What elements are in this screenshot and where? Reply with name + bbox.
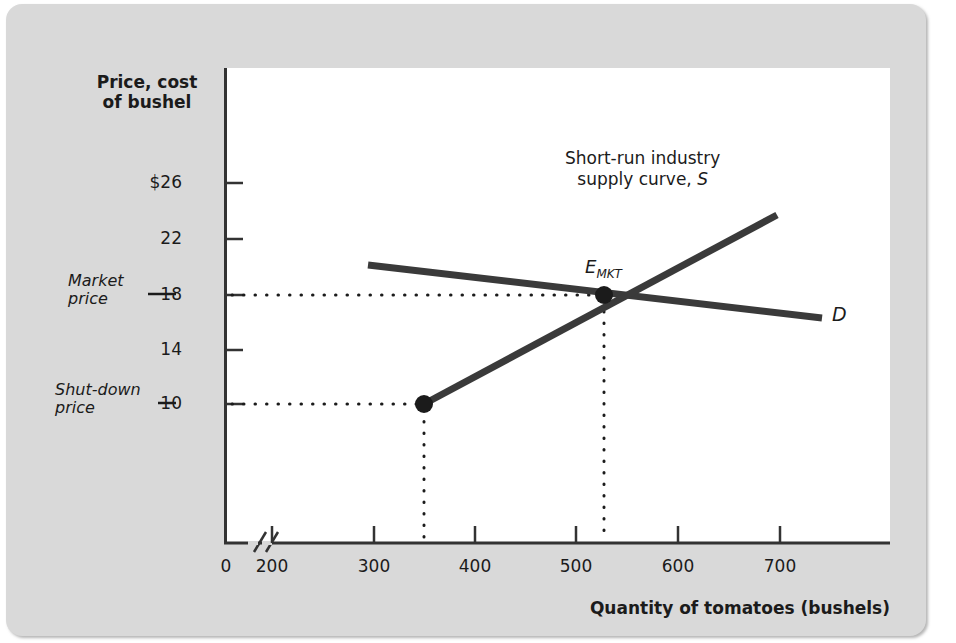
- y-axis-title-line-2: of bushel: [82, 92, 212, 112]
- y-tick-label-14: 14: [118, 339, 182, 359]
- supply-curve-note-line-2: supply curve, S: [565, 169, 720, 190]
- y-axis-ticks: [226, 183, 243, 404]
- x-tick-label-400: 400: [440, 556, 510, 576]
- market-price-line-1: Market: [68, 272, 188, 290]
- x-tick-label-300: 300: [339, 556, 409, 576]
- supply-curve-note-line-1: Short-run industry: [565, 148, 720, 169]
- x-tick-label-500: 500: [541, 556, 611, 576]
- equilibrium-point-marker: [595, 286, 613, 304]
- market-price-annotation: Market price: [68, 272, 188, 309]
- shutdown-price-line-2: price: [55, 399, 175, 417]
- equilibrium-label: EMKT: [585, 256, 622, 281]
- y-tick-label-22: 22: [118, 228, 182, 248]
- equilibrium-label-main: E: [585, 256, 596, 277]
- supply-curve-letter: S: [697, 169, 708, 189]
- supply-curve-note-line-2-text: supply curve,: [577, 169, 691, 189]
- x-axis-title: Quantity of tomatoes (bushels): [520, 598, 890, 618]
- supply-curve-annotation: Short-run industry supply curve, S: [565, 148, 720, 191]
- demand-curve-letter: D: [832, 303, 847, 325]
- x-tick-label-600: 600: [643, 556, 713, 576]
- x-axis-ticks: [272, 526, 780, 543]
- shutdown-price-annotation: Shut-down price: [55, 381, 175, 418]
- x-tick-label-700: 700: [745, 556, 815, 576]
- y-tick-label-26: $26: [118, 172, 182, 192]
- x-tick-label-200: 200: [237, 556, 307, 576]
- market-price-line-2: price: [68, 290, 188, 308]
- equilibrium-label-subscript: MKT: [596, 267, 622, 281]
- figure-container: Price, cost of bushel Quantity of tomato…: [0, 0, 956, 643]
- shutdown-price-line-1: Shut-down: [55, 381, 175, 399]
- y-axis-title-line-1: Price, cost: [82, 72, 212, 92]
- y-axis-title: Price, cost of bushel: [82, 72, 212, 112]
- shutdown-point-marker: [415, 395, 433, 413]
